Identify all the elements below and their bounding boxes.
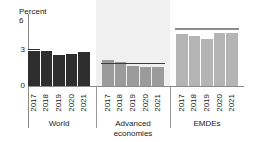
year-label-emdes-2020: 2020: [216, 94, 224, 112]
average-line-emdes: [175, 28, 239, 30]
bar-world-2020[interactable]: [66, 54, 78, 86]
group-caption-line1: Advanced: [102, 119, 164, 129]
bar-world-2019[interactable]: [53, 55, 65, 86]
average-line-world: [27, 50, 91, 51]
group-caption-emdes: EMDEs: [176, 119, 238, 129]
year-tick: 2020: [214, 88, 226, 118]
bar-group-world: [28, 14, 90, 86]
year-label-advanced-2019: 2019: [129, 94, 137, 112]
year-label-emdes-2018: 2018: [190, 94, 198, 112]
year-label-advanced-2021: 2021: [154, 94, 162, 112]
bar-emdes-2017[interactable]: [176, 34, 188, 86]
group-separator-1: [96, 87, 97, 128]
bar-advanced-2021[interactable]: [152, 67, 164, 86]
year-label-emdes-2017: 2017: [178, 94, 186, 112]
bar-world-2017[interactable]: [28, 49, 40, 86]
year-tick: 2021: [78, 88, 90, 118]
bar-emdes-2018[interactable]: [189, 36, 201, 86]
year-labels-world: 20172018201920202021: [28, 88, 90, 118]
group-caption-line1: World: [28, 119, 90, 129]
year-tick: 2021: [152, 88, 164, 118]
group-separator-2: [170, 87, 171, 128]
year-label-world-2021: 2021: [80, 94, 88, 112]
bar-advanced-2020[interactable]: [140, 67, 152, 86]
year-label-world-2020: 2020: [68, 94, 76, 112]
bar-advanced-2019[interactable]: [127, 66, 139, 86]
year-label-world-2019: 2019: [55, 94, 63, 112]
year-label-emdes-2021: 2021: [228, 94, 236, 112]
year-tick: 2019: [53, 88, 65, 118]
year-labels-advanced: 20172018201920202021: [102, 88, 164, 118]
y-axis-tick-3: 3: [21, 46, 25, 54]
year-label-advanced-2017: 2017: [104, 94, 112, 112]
bar-group-emdes: [176, 14, 238, 86]
bar-emdes-2020[interactable]: [214, 33, 226, 86]
bar-advanced-2018[interactable]: [115, 62, 127, 86]
growth-bar-chart: Percent 6 2000-18 average 3 0 2017201820…: [0, 0, 253, 142]
bars-advanced: [102, 14, 164, 86]
year-label-world-2018: 2018: [42, 94, 50, 112]
group-caption-line1: EMDEs: [176, 119, 238, 129]
year-tick: 2017: [102, 88, 114, 118]
bar-world-2018[interactable]: [41, 50, 53, 86]
year-tick: 2021: [226, 88, 238, 118]
bar-emdes-2019[interactable]: [201, 39, 213, 86]
year-tick: 2018: [41, 88, 53, 118]
year-labels-emdes: 20172018201920202021: [176, 88, 238, 118]
bar-emdes-2021[interactable]: [226, 33, 238, 86]
bars-emdes: [176, 14, 238, 86]
y-axis-tick-0: 0: [21, 82, 25, 90]
year-tick: 2020: [66, 88, 78, 118]
group-caption-line2: economies: [102, 129, 164, 139]
year-tick: 2017: [176, 88, 188, 118]
group-caption-world: World: [28, 119, 90, 129]
year-tick: 2017: [28, 88, 40, 118]
year-tick: 2020: [140, 88, 152, 118]
year-label-advanced-2018: 2018: [116, 94, 124, 112]
year-tick: 2018: [189, 88, 201, 118]
average-line-advanced: [101, 63, 165, 64]
plot-area: 3 0: [28, 14, 244, 86]
year-tick: 2019: [201, 88, 213, 118]
x-axis-line: [28, 86, 244, 87]
group-caption-advanced: Advancedeconomies: [102, 119, 164, 138]
bar-group-advanced: [102, 14, 164, 86]
bar-world-2021[interactable]: [78, 52, 90, 86]
year-label-emdes-2019: 2019: [203, 94, 211, 112]
year-tick: 2019: [127, 88, 139, 118]
year-label-advanced-2020: 2020: [142, 94, 150, 112]
year-tick: 2018: [115, 88, 127, 118]
year-label-world-2017: 2017: [30, 94, 38, 112]
